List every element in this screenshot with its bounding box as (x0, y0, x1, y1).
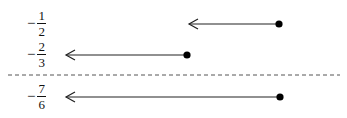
closed-endpoint-dot (276, 93, 283, 100)
closed-endpoint-dot (183, 51, 190, 58)
closed-endpoint-dot (275, 20, 282, 27)
diagram-canvas: − 1 2 − 2 3 − 7 6 (0, 0, 347, 118)
arrows-layer (0, 0, 347, 118)
